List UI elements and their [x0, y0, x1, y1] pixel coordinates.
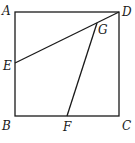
- label-a: A: [1, 4, 11, 18]
- label-f: F: [62, 120, 72, 134]
- segment-ed: [15, 12, 119, 63]
- segment-fg: [67, 23, 97, 116]
- label-e: E: [2, 59, 12, 73]
- geometry-diagram: A B C D E F G: [0, 0, 135, 143]
- label-b: B: [1, 119, 11, 133]
- label-d: D: [121, 5, 132, 19]
- label-g: G: [98, 23, 108, 37]
- label-c: C: [122, 119, 131, 133]
